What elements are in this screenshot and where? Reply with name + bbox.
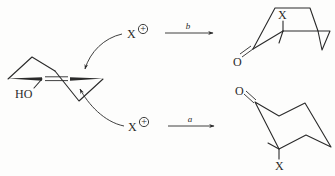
electrophile-bottom-charge: +: [141, 116, 147, 127]
product-a-o-label: O: [235, 84, 244, 98]
left-ring-bonds: [8, 57, 55, 79]
product-b-x-label: X: [278, 8, 287, 22]
reaction-scheme-svg: HO X + X + b a X O: [0, 0, 335, 176]
left-wedge-bond: [8, 77, 42, 81]
reaction-arrow-b-label: b: [186, 21, 191, 31]
product-b-ring-right: [318, 31, 330, 50]
reaction-diagram: HO X + X + b a X O: [0, 0, 335, 176]
reaction-arrow-a-label: a: [188, 114, 193, 124]
electrophile-top: X +: [127, 23, 148, 41]
product-b-o-label: O: [233, 55, 242, 69]
product-a-co-bond-2: [246, 91, 256, 100]
electrophile-top-symbol: X: [127, 27, 136, 41]
right-ring-bonds: [55, 71, 103, 101]
electrophile-top-charge: +: [140, 23, 146, 34]
product-a-x-label: X: [275, 159, 284, 173]
product-b-co-bond-1: [242, 49, 253, 57]
right-wedge-bond: [70, 77, 103, 81]
electrophile-bottom-symbol: X: [128, 120, 137, 134]
hydroxyl-label: HO: [15, 87, 33, 101]
product-a-chair-ring: [255, 102, 331, 149]
electrophile-bottom: X +: [128, 116, 149, 134]
product-a-co-bond-1: [244, 94, 254, 103]
product-a: [244, 91, 331, 159]
product-b-co-bond-2: [240, 46, 251, 54]
curved-arrow-top-attack: [85, 34, 122, 69]
